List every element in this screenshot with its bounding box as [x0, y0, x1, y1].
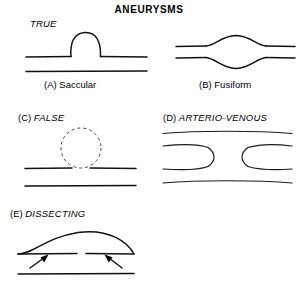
- panel-false-drawing: [25, 128, 136, 186]
- caption-saccular: (A) Saccular: [44, 79, 96, 90]
- caption-fusiform: (B) Fusiform: [199, 79, 251, 90]
- group-name-arterio-venous: ARTERIO-VENOUS: [179, 112, 267, 123]
- dissection-arrow-left: [30, 255, 49, 269]
- panel-saccular-drawing: [26, 32, 147, 71]
- group-label-arterio-venous: (D) ARTERIO-VENOUS: [163, 112, 267, 123]
- group-label-false: (C) FALSE: [18, 112, 64, 123]
- panel-dissecting-drawing: [18, 232, 134, 274]
- panel-arterio-venous-drawing: [163, 131, 292, 183]
- group-name-false: FALSE: [34, 112, 64, 123]
- group-label-dissecting: (E) DISSECTING: [10, 208, 85, 219]
- false-aneurysm-sac: [61, 128, 101, 168]
- group-tag-e: (E): [10, 208, 23, 219]
- figure-artwork: [0, 0, 298, 291]
- panel-fusiform-drawing: [176, 36, 295, 69]
- aneurysms-figure: ANEURYSMS TRUE (C) FALSE (D) ARTERIO-VEN…: [0, 0, 298, 291]
- group-tag-c: (C): [18, 112, 31, 123]
- group-tag-d: (D): [163, 112, 176, 123]
- group-name-dissecting: DISSECTING: [25, 208, 85, 219]
- figure-title: ANEURYSMS: [0, 4, 298, 15]
- dissection-arrow-right: [105, 255, 123, 269]
- group-label-true: TRUE: [30, 18, 57, 29]
